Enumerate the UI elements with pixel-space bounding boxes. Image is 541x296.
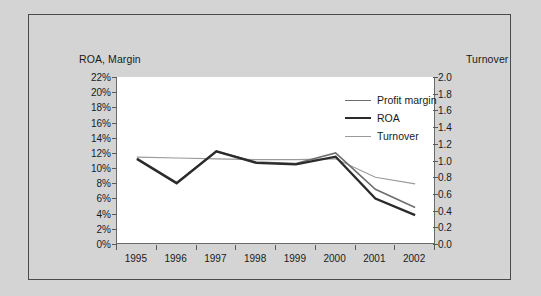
x-axis-tick-mark [434, 245, 435, 250]
legend-item-label: Profit margin [377, 94, 437, 106]
left-axis-title: ROA, Margin [79, 53, 141, 65]
x-axis-tick-label: 1996 [165, 253, 187, 264]
right-axis-tick-mark [433, 144, 438, 145]
right-axis-tick-mark [433, 94, 438, 95]
right-axis-tick-mark [433, 227, 438, 228]
right-axis-tick-mark [433, 110, 438, 111]
left-axis-tick-label: 6% [77, 193, 111, 204]
x-axis-tick-labels: 19951996199719981999200020012002 [116, 251, 434, 267]
left-axis-tick-label: 22% [77, 72, 111, 83]
right-axis-tick-mark [433, 194, 438, 195]
legend-line-swatch [345, 136, 371, 137]
x-axis-tick-label: 2001 [363, 253, 385, 264]
right-axis-tick-mark [433, 127, 438, 128]
chart-frame: ROA, Margin Turnover 0%2%4%6%8%10%12%14%… [28, 14, 511, 280]
x-axis-tick-label: 1998 [244, 253, 266, 264]
right-axis-tick-label: 0.8 [438, 172, 472, 183]
right-axis-tick-mark [433, 177, 438, 178]
left-axis-tick-label: 10% [77, 163, 111, 174]
x-axis-tick-mark [235, 245, 236, 250]
right-axis-tick-label: 2.0 [438, 72, 472, 83]
left-axis-tick-label: 8% [77, 178, 111, 189]
right-axis-title: Turnover [466, 53, 508, 65]
left-axis-tick-labels: 0%2%4%6%8%10%12%14%16%18%20%22% [75, 77, 111, 244]
legend-item-label: Turnover [377, 130, 419, 142]
left-axis-tick-label: 20% [77, 87, 111, 98]
x-axis-tick-label: 1999 [284, 253, 306, 264]
chart-figure: ROA, Margin Turnover 0%2%4%6%8%10%12%14%… [0, 0, 541, 296]
left-axis-tick-mark [112, 198, 117, 199]
legend-item-label: ROA [377, 112, 400, 124]
x-axis-tick-label: 1997 [204, 253, 226, 264]
legend-item: Turnover [345, 127, 465, 145]
x-axis-tick-mark [315, 245, 316, 250]
left-axis-tick-mark [112, 229, 117, 230]
left-axis-tick-label: 2% [77, 223, 111, 234]
legend-item: Profit margin [345, 91, 465, 109]
right-axis-tick-label: 0.2 [438, 222, 472, 233]
legend-item: ROA [345, 109, 465, 127]
x-axis-tick-label: 1995 [125, 253, 147, 264]
x-axis-tick-mark [394, 245, 395, 250]
left-axis-tick-mark [112, 138, 117, 139]
left-axis-tick-mark [112, 168, 117, 169]
x-axis-tick-mark [355, 245, 356, 250]
left-axis-tick-label: 4% [77, 208, 111, 219]
right-axis-tick-mark [433, 161, 438, 162]
left-axis-tick-label: 14% [77, 132, 111, 143]
series-line [137, 157, 415, 184]
left-axis-tick-label: 12% [77, 147, 111, 158]
left-axis-tick-label: 18% [77, 102, 111, 113]
series-line [137, 151, 415, 215]
left-axis-tick-mark [112, 123, 117, 124]
x-axis-tick-mark [156, 245, 157, 250]
right-axis-tick-label: 0.0 [438, 239, 472, 250]
right-axis-tick-label: 0.6 [438, 188, 472, 199]
legend-line-swatch [345, 100, 371, 101]
left-axis-tick-mark [112, 107, 117, 108]
x-axis-tick-mark [196, 245, 197, 250]
right-axis-tick-label: 1.0 [438, 155, 472, 166]
x-axis-tick-mark [275, 245, 276, 250]
legend-line-swatch [345, 117, 371, 119]
right-axis-tick-label: 0.4 [438, 205, 472, 216]
x-axis-tick-label: 2000 [324, 253, 346, 264]
right-axis-tick-mark [433, 211, 438, 212]
left-axis-tick-mark [112, 214, 117, 215]
left-axis-tick-mark [112, 183, 117, 184]
left-axis-tick-label: 0% [77, 239, 111, 250]
left-axis-tick-mark [112, 153, 117, 154]
left-axis-tick-mark [112, 92, 117, 93]
left-axis-tick-mark [112, 77, 117, 78]
chart-legend: Profit marginROATurnover [345, 91, 465, 145]
right-axis-tick-mark [433, 77, 438, 78]
x-axis-tick-label: 2002 [403, 253, 425, 264]
x-axis-tick-mark [116, 245, 117, 250]
left-axis-tick-label: 16% [77, 117, 111, 128]
